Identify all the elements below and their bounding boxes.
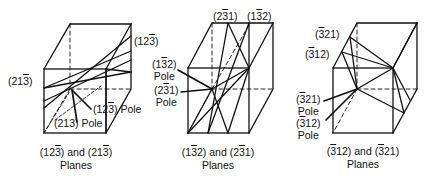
label-part: Pole: [296, 129, 321, 141]
pole-label-3bar-21: (321) Pole: [296, 93, 321, 117]
pole-label-3bar-12: (312) Pole: [296, 117, 321, 141]
label-part: ): [109, 146, 113, 158]
caption-line-1: (312) and (321): [325, 145, 401, 158]
label-part: 12) and (: [336, 145, 378, 157]
label-part: 21): [305, 93, 320, 105]
label-part: 21): [384, 145, 399, 157]
label-part: 12): [314, 48, 329, 60]
label-part: ) and (21: [61, 146, 103, 158]
label-part: (1: [152, 58, 161, 70]
label-part: (12: [134, 35, 149, 47]
caption-line-2: Planes: [325, 158, 401, 171]
label-part: (12: [40, 146, 55, 158]
plane-label-12-3bar: (123): [134, 35, 159, 47]
pole-label-12-3bar: (123) Pole: [93, 103, 141, 115]
caption-line-2: Planes: [180, 159, 256, 172]
plane-label-3bar-21: (321): [315, 28, 340, 40]
label-part: Pole: [154, 96, 179, 108]
plane-label-3bar-12: (312): [305, 48, 330, 60]
label-part: (21: [8, 75, 23, 87]
pole-label-213: (213) Pole: [54, 117, 102, 129]
plane-label-2-3bar-1: (231): [213, 10, 238, 22]
label-part: Pole: [296, 105, 321, 117]
label-part: 12): [305, 117, 320, 129]
label-part: ) Pole: [114, 103, 141, 115]
label-part: 1): [228, 10, 237, 22]
caption-cube-1: (123) and (213) Planes: [38, 146, 114, 172]
label-part: 21): [324, 28, 339, 40]
label-part: (12: [93, 103, 108, 115]
label-part: (2: [213, 10, 222, 22]
caption-cube-2: (132) and (231) Planes: [180, 146, 256, 172]
label-part: 1): [169, 84, 178, 96]
cube-2: [178, 23, 273, 133]
label-part: ): [29, 75, 33, 87]
plane-label-21-3bar: (213): [8, 75, 33, 87]
caption-line-1: (132) and (231): [180, 146, 256, 159]
label-part: ): [155, 35, 159, 47]
pole-label-1-3bar-2: (132) Pole: [152, 58, 177, 82]
label-part: (1: [182, 146, 191, 158]
label-part: 2) and (2: [197, 146, 239, 158]
label-part: (1: [247, 10, 256, 22]
label-part: (2: [154, 84, 163, 96]
label-part: 1): [245, 146, 254, 158]
plane-label-1-3bar-2: (132): [247, 10, 272, 22]
caption-cube-3: (312) and (321) Planes: [325, 145, 401, 171]
label-part: 2): [167, 58, 176, 70]
caption-line-1: (123) and (213): [38, 146, 114, 159]
caption-line-2: Planes: [38, 159, 114, 172]
label-part: 2): [262, 10, 271, 22]
label-part: Pole: [152, 70, 177, 82]
pole-label-2-3bar-1: (231) Pole: [154, 84, 179, 108]
